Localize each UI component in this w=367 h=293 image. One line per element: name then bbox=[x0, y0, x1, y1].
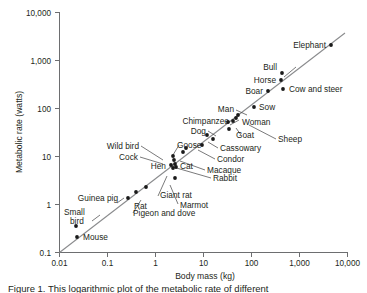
point-label-cassowary: Cassowary bbox=[220, 143, 262, 153]
x-tick-label-100: 100 bbox=[245, 259, 259, 268]
data-point-sheep[interactable] bbox=[231, 119, 235, 123]
point-label-boar: Boar bbox=[245, 86, 263, 96]
point-label-man: Man bbox=[218, 104, 235, 114]
data-point-cock[interactable] bbox=[172, 158, 176, 162]
y-tick-label-10: 10 bbox=[42, 153, 52, 162]
point-label-cock: Cock bbox=[119, 152, 139, 162]
data-point-goat[interactable] bbox=[227, 127, 231, 131]
leader-line-guinea-pig bbox=[117, 198, 124, 203]
point-label-dog: Dog bbox=[191, 126, 207, 136]
y-tick-label-10000: 10,000 bbox=[26, 9, 51, 18]
data-point-wild-bird[interactable] bbox=[171, 154, 175, 158]
x-axis-title: Body mass (kg) bbox=[175, 271, 235, 281]
data-point-sow[interactable] bbox=[252, 105, 256, 109]
point-label-mouse: Mouse bbox=[83, 232, 108, 242]
y-tick-label-1: 1 bbox=[46, 201, 51, 210]
data-point-cow-and-steer[interactable] bbox=[281, 87, 285, 91]
data-point-rabbit[interactable] bbox=[174, 165, 178, 169]
point-label-sheep: Sheep bbox=[278, 134, 302, 144]
leader-line-wild-bird bbox=[141, 146, 163, 160]
data-point-rat[interactable] bbox=[126, 196, 130, 200]
point-label-guinea-pig: Guinea pig bbox=[78, 193, 119, 203]
data-point-cassowary[interactable] bbox=[211, 137, 215, 141]
x-tick-label-10: 10 bbox=[199, 259, 209, 268]
data-point-horse[interactable] bbox=[279, 78, 283, 82]
point-label-goat: Goat bbox=[236, 130, 255, 140]
trend-line bbox=[60, 33, 346, 253]
data-point-pigeon-and-dove[interactable] bbox=[144, 185, 148, 189]
y-tick-label-0.1: 0.1 bbox=[40, 249, 52, 258]
x-tick-label-0.01: 0.01 bbox=[52, 259, 68, 268]
data-point-mouse[interactable] bbox=[75, 235, 79, 239]
point-label-wild-bird: Wild bird bbox=[107, 141, 140, 151]
point-label-hen: Hen bbox=[151, 161, 167, 171]
point-label-giant-rat: Giant rat bbox=[160, 190, 193, 200]
data-point-boar[interactable] bbox=[266, 89, 270, 93]
x-tick-label-1: 1 bbox=[153, 259, 158, 268]
point-label-sow: Sow bbox=[259, 102, 276, 112]
data-point-macaque[interactable] bbox=[181, 150, 185, 154]
data-point-hen[interactable] bbox=[169, 163, 173, 167]
y-tick-label-100: 100 bbox=[37, 105, 51, 114]
point-label-chimpanzee: Chimpanzee bbox=[182, 116, 229, 126]
y-axis-title: Metabolic rate (watts) bbox=[14, 91, 24, 173]
point-label-elephant: Elephant bbox=[293, 40, 326, 50]
x-tick-label-10000: 10,000 bbox=[335, 259, 360, 268]
point-label-bull: Bull bbox=[263, 62, 277, 72]
point-label-condor: Condor bbox=[217, 154, 244, 164]
point-label-cow-and-steer: Cow and steer bbox=[289, 84, 343, 94]
point-label-marmot: Marmot bbox=[180, 200, 209, 210]
point-label-cat: Cat bbox=[180, 161, 194, 171]
leader-line-cassowary bbox=[208, 142, 218, 148]
point-label-macaque: Macaque bbox=[207, 165, 242, 175]
data-point-marmot[interactable] bbox=[173, 176, 177, 180]
y-tick-label-1000: 1,000 bbox=[31, 57, 52, 66]
point-label-horse: Horse bbox=[254, 75, 277, 85]
figure-container: 10,000 1,000 100 10 1 0.1 0.01 0.1 1 10 … bbox=[0, 0, 367, 293]
leader-line-condor bbox=[198, 150, 215, 159]
data-point-woman[interactable] bbox=[234, 116, 238, 120]
figure-caption-strip: Figure 1. This logarithmic plot of the m… bbox=[0, 284, 367, 293]
x-tick-label-1000: 1,000 bbox=[289, 259, 310, 268]
metabolic-rate-scatter-chart: 10,000 1,000 100 10 1 0.1 0.01 0.1 1 10 … bbox=[0, 0, 367, 293]
leader-line-small-bird bbox=[92, 215, 100, 221]
x-tick-label-0.1: 0.1 bbox=[102, 259, 114, 268]
point-labels-group: Mouse Small bird Rat Guinea pig Pigeon a… bbox=[64, 40, 343, 242]
data-point-guinea-pig[interactable] bbox=[134, 190, 138, 194]
point-label-woman: Woman bbox=[242, 117, 271, 127]
figure-caption: Figure 1. This logarithmic plot of the m… bbox=[8, 284, 269, 293]
point-label-small-bird-2: bird bbox=[70, 216, 84, 226]
data-point-elephant[interactable] bbox=[329, 43, 333, 47]
data-point-bull[interactable] bbox=[280, 71, 284, 75]
point-label-goose: Goose bbox=[177, 140, 202, 150]
